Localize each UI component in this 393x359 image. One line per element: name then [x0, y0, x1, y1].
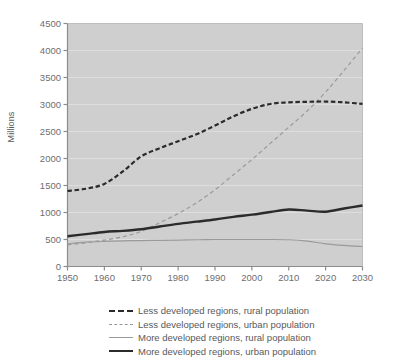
legend-item[interactable]: More developed regions, rural population: [108, 331, 393, 345]
legend-item-label: More developed regions, rural population: [138, 333, 311, 343]
chart-legend: Less developed regions, rural population…: [108, 304, 393, 358]
x-tick-label: 1950: [48, 272, 88, 283]
x-axis-tick-labels: 195019601970198019902000201020202030: [0, 272, 393, 286]
x-tick-label: 1960: [84, 272, 124, 283]
legend-line-swatch-icon: [108, 345, 134, 357]
population-line-chart: Millions 0500100015002000250030003500400…: [0, 0, 393, 359]
legend-item-label: Less developed regions, urban population: [138, 320, 314, 330]
legend-line-swatch-icon: [108, 305, 134, 317]
legend-item[interactable]: Less developed regions, rural population: [108, 304, 393, 318]
x-tick-label: 2000: [232, 272, 272, 283]
x-tick-label: 1980: [158, 272, 198, 283]
plot-background: [68, 24, 363, 267]
legend-item-label: More developed regions, urban population: [138, 347, 316, 357]
legend-line-swatch-icon: [108, 332, 134, 344]
legend-line-swatch-icon: [108, 318, 134, 330]
legend-item[interactable]: More developed regions, urban population: [108, 345, 393, 359]
x-tick-label: 2020: [306, 272, 346, 283]
x-tick-label: 1970: [121, 272, 161, 283]
legend-item-label: Less developed regions, rural population: [138, 306, 309, 316]
legend-item[interactable]: Less developed regions, urban population: [108, 318, 393, 332]
x-tick-label: 1990: [195, 272, 235, 283]
x-tick-label: 2030: [343, 272, 383, 283]
x-tick-label: 2010: [269, 272, 309, 283]
